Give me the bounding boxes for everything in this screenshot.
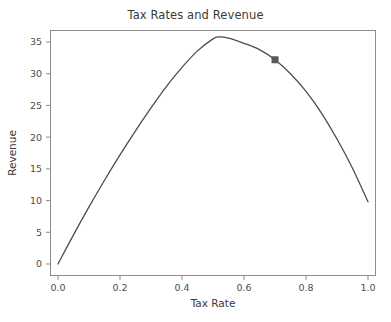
- y-tick-label-25: 25: [30, 100, 42, 111]
- y-axis-ticks: [46, 42, 51, 264]
- x-tick-label-3: 0.6: [236, 282, 251, 293]
- x-tick-label-1: 0.2: [112, 282, 127, 293]
- y-tick-label-30: 30: [30, 68, 42, 79]
- y-tick-label-20: 20: [30, 132, 42, 143]
- axes-frame: [51, 31, 376, 276]
- x-axis-title: Tax Rate: [190, 297, 236, 309]
- plot-area: 0 5 10 15 20 25 30 35 0.0 0.2 0.4 0.6 0.…: [0, 0, 391, 322]
- x-tick-label-0: 0.0: [50, 282, 65, 293]
- y-tick-label-5: 5: [36, 227, 42, 238]
- y-tick-label-35: 35: [30, 36, 42, 47]
- y-axis-title: Revenue: [6, 130, 18, 176]
- x-tick-label-5: 1.0: [360, 282, 375, 293]
- bottom-edge-artifact: [45, 312, 375, 321]
- y-tick-label-15: 15: [30, 163, 42, 174]
- x-tick-label-2: 0.4: [174, 282, 189, 293]
- chart-figure: Tax Rates and Revenue 0 5 10 15 20 25 30…: [0, 0, 391, 322]
- x-tick-label-4: 0.8: [298, 282, 313, 293]
- highlighted-point-marker[interactable]: [272, 56, 279, 63]
- y-tick-label-10: 10: [30, 195, 42, 206]
- y-tick-label-0: 0: [36, 258, 42, 269]
- x-axis-ticks: [58, 276, 368, 281]
